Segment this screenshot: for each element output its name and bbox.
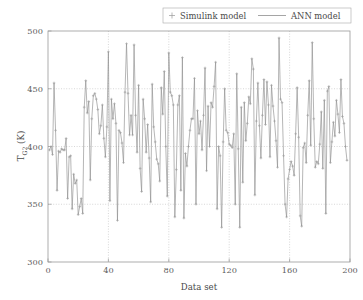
y-axis-title-unit: (K) xyxy=(16,131,26,147)
y-tick-label: 400 xyxy=(27,142,43,152)
y-tick-label: 350 xyxy=(27,199,43,209)
svg-text:TG2 (K): TG2 (K) xyxy=(16,131,28,161)
y-tick-label: 450 xyxy=(27,84,43,94)
temperature-line-chart: Simulink model ANN model 04080120160200 … xyxy=(0,0,363,300)
legend-label-simulink: Simulink model xyxy=(180,11,247,21)
chart-figure: Simulink model ANN model 04080120160200 … xyxy=(0,0,363,300)
legend-entry-simulink: Simulink model xyxy=(169,11,247,21)
y-axis-title: TG2 (K) xyxy=(16,131,28,161)
y-tick-label: 300 xyxy=(27,257,43,267)
x-tick-label: 200 xyxy=(342,265,358,275)
x-tick-label: 80 xyxy=(164,265,174,275)
x-tick-label: 120 xyxy=(221,265,237,275)
legend-label-ann: ANN model xyxy=(290,11,341,21)
x-axis-title: Data set xyxy=(181,282,218,292)
chart-legend: Simulink model ANN model xyxy=(163,8,351,23)
x-tick-label: 160 xyxy=(282,265,298,275)
y-axis-title-sub: G2 xyxy=(21,147,28,156)
x-tick-label: 0 xyxy=(45,265,50,275)
x-tick-label: 40 xyxy=(103,265,113,275)
y-tick-label: 500 xyxy=(27,26,43,36)
